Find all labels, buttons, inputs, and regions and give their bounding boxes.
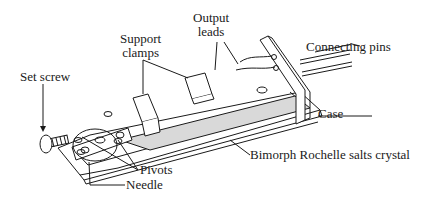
label-line: Support	[120, 32, 161, 46]
label-support-clamps: Support clamps	[120, 32, 161, 60]
label-line: leads	[193, 25, 229, 39]
label-output-leads: Output leads	[193, 11, 229, 39]
set-screw-head	[40, 135, 52, 153]
label-case: Case	[318, 107, 343, 121]
label-pivots: Pivots	[140, 163, 173, 177]
label-needle: Needle	[126, 178, 163, 192]
label-connecting-pins: Connecting pins	[306, 40, 391, 54]
label-bimorph-crystal: Bimorph Rochelle salts crystal	[250, 148, 410, 162]
front-clamp	[133, 94, 158, 122]
label-line: Output	[193, 11, 229, 25]
label-set-screw: Set screw	[20, 70, 70, 84]
label-line: clamps	[120, 46, 161, 60]
